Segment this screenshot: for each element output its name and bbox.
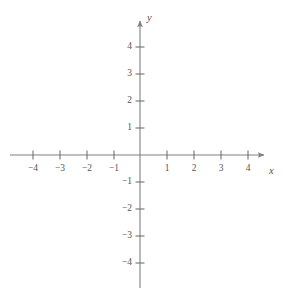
x-axis-label: x: [269, 166, 274, 177]
x-tick-label-pos1: 1: [165, 164, 170, 174]
x-tick-label-neg3: −3: [55, 164, 65, 174]
x-tick-label-pos3: 3: [219, 164, 224, 174]
y-axis-label: y: [147, 13, 152, 24]
coordinate-plane-figure: −4 −3 −2 −1 1 2 3 4 4 3 2 1 −1 −2 −3 −4 …: [0, 0, 284, 295]
x-tick-label-neg2: −2: [82, 164, 92, 174]
y-tick-label-neg1: −1: [122, 177, 132, 187]
y-tick-label-pos3: 3: [127, 69, 132, 79]
y-tick-label-neg3: −3: [122, 231, 132, 241]
y-tick-label-pos1: 1: [127, 123, 132, 133]
y-tick-label-pos4: 4: [127, 42, 132, 52]
y-tick-label-neg4: −4: [122, 258, 132, 268]
y-tick-label-neg2: −2: [122, 204, 132, 214]
x-tick-label-pos2: 2: [192, 164, 197, 174]
x-tick-label-neg1: −1: [109, 164, 119, 174]
y-tick-label-pos2: 2: [127, 96, 132, 106]
axes-graphic: [0, 0, 284, 295]
x-tick-label-pos4: 4: [246, 164, 251, 174]
x-tick-label-neg4: −4: [28, 164, 38, 174]
